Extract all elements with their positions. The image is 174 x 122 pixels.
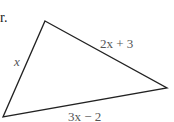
triangle-diagram: x 2x + 3 3x − 2 bbox=[0, 0, 174, 122]
label-side-3x-minus-2: 3x − 2 bbox=[68, 109, 101, 122]
label-side-2x-plus-3: 2x + 3 bbox=[100, 36, 133, 51]
label-side-x: x bbox=[13, 54, 20, 69]
triangle-shape bbox=[3, 21, 167, 117]
